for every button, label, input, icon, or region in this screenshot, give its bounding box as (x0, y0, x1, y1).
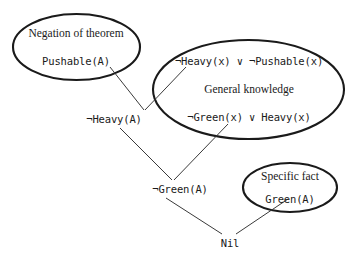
edge-pushable-to-not-heavy-a (110, 67, 144, 110)
edge-not-heavy-a-to-not-green-a (120, 128, 172, 180)
resolvent-nil: Nil (221, 238, 240, 249)
clause-green-a: Green(A) (265, 194, 314, 205)
resolvent-not-green-a: ¬Green(A) (152, 184, 208, 195)
clause-pushable-a: Pushable(A) (42, 56, 110, 67)
edge-not-green-a-to-nil (166, 198, 222, 234)
clause-not-green-or-heavy: ¬Green(x) ∨ Heavy(x) (187, 112, 310, 123)
ellipse-negation-of-theorem (13, 14, 140, 80)
label-general-knowledge: General knowledge (204, 84, 294, 96)
edge-clause-heavy-pushable-to-not-heavy-a (145, 67, 186, 110)
resolution-proof-figure: Negation of theorem Pushable(A) ¬Heavy(x… (0, 0, 357, 260)
resolvent-not-heavy-a: ¬Heavy(A) (86, 114, 142, 125)
label-specific-fact: Specific fact (261, 171, 319, 183)
label-negation-of-theorem: Negation of theorem (28, 28, 123, 40)
clause-not-heavy-or-not-pushable: ¬Heavy(x) ∨ ¬Pushable(x) (175, 56, 323, 67)
